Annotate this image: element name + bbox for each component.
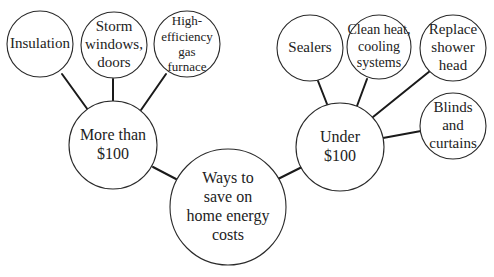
circle-storm-windows-doors xyxy=(81,12,147,78)
circle-more-than-100 xyxy=(69,101,157,189)
circle-insulation xyxy=(7,11,73,77)
connector-under-100-to-clean-heat-cooling-systems xyxy=(357,79,367,106)
connector-under-100-to-sealers xyxy=(318,81,327,104)
circle-high-efficiency-gas-furnace xyxy=(154,11,220,77)
node-circles xyxy=(7,11,486,265)
connector-more-than-100-to-insulation xyxy=(62,74,88,110)
connector-more-than-100-to-high-efficiency-gas-furnace xyxy=(141,74,166,110)
connector-layer xyxy=(0,0,494,277)
circle-root xyxy=(170,149,286,265)
circle-replace-shower-head xyxy=(420,15,486,81)
circle-clean-heat-cooling-systems xyxy=(347,15,411,79)
connector-root-to-more-than-100 xyxy=(153,167,176,179)
connector-under-100-to-blinds-and-curtains xyxy=(383,131,421,138)
circle-blinds-and-curtains xyxy=(420,93,486,159)
circle-under-100 xyxy=(296,103,384,191)
circle-sealers xyxy=(277,15,343,81)
connector-root-to-under-100 xyxy=(278,167,302,179)
energy-savings-concept-web: Ways to save on home energy costs More t… xyxy=(0,0,494,277)
